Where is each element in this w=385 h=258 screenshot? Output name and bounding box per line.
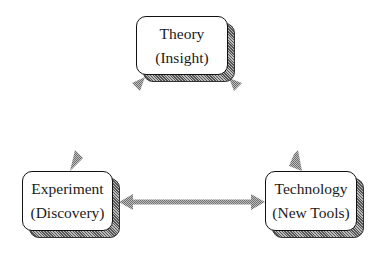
arrow-experiment-theory (70, 77, 145, 171)
node-subtitle: (Discovery) (30, 201, 104, 225)
node-title: Theory (160, 22, 205, 46)
arrow-theory-technology (229, 78, 302, 171)
node-box-experiment: Experiment (Discovery) (22, 171, 113, 231)
node-box-technology: Technology (New Tools) (265, 171, 357, 231)
node-technology: Technology (New Tools) (265, 171, 364, 238)
node-theory: Theory (Insight) (136, 16, 235, 82)
node-title: Technology (275, 177, 348, 201)
node-subtitle: (Insight) (155, 46, 208, 70)
node-box-theory: Theory (Insight) (136, 16, 228, 75)
arrow-experiment-technology (119, 194, 265, 210)
node-subtitle: (New Tools) (272, 201, 349, 225)
node-title: Experiment (31, 177, 103, 201)
node-experiment: Experiment (Discovery) (22, 171, 120, 238)
